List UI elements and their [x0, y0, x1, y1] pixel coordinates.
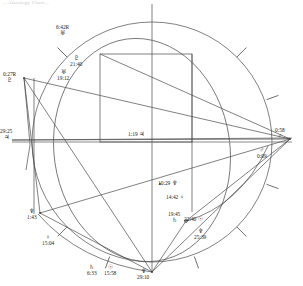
planet-label-neptune-lowright: ♆25:39: [194, 228, 206, 240]
degree-value: 15:04: [42, 240, 54, 246]
mars-glyph-icon: ♂: [275, 133, 285, 139]
planet-label-uranus-outer-top: 6:42R♅: [56, 24, 69, 36]
degree-value: 21:40: [70, 61, 82, 67]
degree-value: 14:42: [166, 194, 178, 200]
planet-label-sun-bottom: ☉15:58: [104, 264, 116, 276]
degree-value: 22:40: [184, 216, 196, 222]
degree-value: 29:10: [137, 274, 149, 280]
planet-label-neptune-ic: ♆29:10: [137, 268, 149, 280]
degree-value: 1:19: [128, 131, 138, 137]
planet-label-pluto: ♇21:40: [70, 55, 82, 67]
planet-label-mars-inner: ♂0:09: [257, 147, 267, 159]
degree-value: 15:58: [104, 270, 116, 276]
planet-label-pluto-left: 0:27R♇: [3, 71, 16, 83]
planet-label-venus-mid: 14:42 ♀: [166, 194, 184, 200]
planet-label-jupiter-asc: 29:25♃: [0, 128, 12, 140]
degree-value: 25:39: [194, 234, 206, 240]
pluto-glyph-icon: ♇: [3, 77, 16, 83]
planet-label-neptune-left: ♆1:43: [27, 208, 37, 220]
planet-label-sun-right: 22:40 ☉: [184, 216, 203, 222]
jupiter-glyph-icon: ♃: [139, 130, 144, 137]
inner-arc-lower-right: [186, 146, 268, 221]
tick-marks: [58, 48, 279, 269]
planet-label-uranus-inner: ♅19:12: [57, 69, 69, 81]
planet-label-venus-left: ♀15:04: [42, 234, 54, 246]
degree-value: 19:12: [57, 75, 69, 81]
saturn-glyph-icon: ♄: [168, 217, 180, 223]
jupiter-glyph-icon: ♃: [0, 134, 12, 140]
degree-value: 1:43: [27, 214, 37, 220]
planet-label-saturn-bottom: ♄6:33: [87, 264, 97, 276]
degree-value: 10:29: [158, 180, 170, 186]
planet-label-neptune-mid: 10:29 ♆: [158, 180, 177, 186]
planet-label-mars-dsc: 0:58♂: [275, 127, 285, 139]
uranus-glyph-icon: ♅: [56, 30, 69, 36]
chart-rectangle: [100, 54, 192, 142]
degree-value: 0:09: [257, 153, 267, 159]
planet-label-jupiter-center: 1:19 ♃: [128, 131, 144, 137]
sun-glyph-icon: ☉: [198, 215, 203, 222]
planet-label-saturn-right: 19:45♄: [168, 211, 180, 223]
astrology-chart-wheel: ...Astrology Chart...: [0, 0, 303, 286]
degree-value: 6:33: [87, 270, 97, 276]
venus-glyph-icon: ♀: [180, 193, 185, 200]
neptune-glyph-icon: ♆: [172, 179, 177, 186]
